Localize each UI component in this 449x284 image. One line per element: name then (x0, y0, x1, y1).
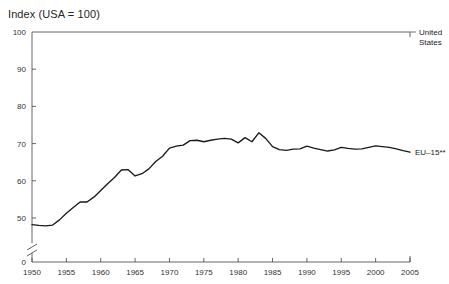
chart-figure: Index (USA = 100) 10090807060500 1950195… (0, 0, 449, 284)
series-label-united-states-line1: United (419, 28, 442, 37)
x-axis-tick-label: 1960 (92, 268, 110, 277)
y-axis-tick-label: 70 (17, 140, 26, 149)
x-axis-tick-label: 1975 (195, 268, 213, 277)
series-annotations: UnitedStatesEU–15** (410, 28, 446, 157)
y-axis-tick-label: 50 (17, 214, 26, 223)
data-series-group (32, 133, 410, 226)
y-axis-tick-label: 0 (22, 258, 27, 267)
x-axis-tick-label: 1970 (161, 268, 179, 277)
chart-canvas: 10090807060500 1950195519601965197019751… (0, 0, 449, 284)
x-axis-tick-label: 2000 (367, 268, 385, 277)
x-axis-tick-label: 1985 (264, 268, 282, 277)
y-axis-tick-label: 60 (17, 177, 26, 186)
x-axis-tick-label: 1995 (332, 268, 350, 277)
x-axis-tick-label: 1990 (298, 268, 316, 277)
x-axis-tick-label: 1955 (57, 268, 75, 277)
y-axis-tick-label: 100 (13, 28, 27, 37)
series-label-united-states-line2: States (419, 38, 442, 47)
chart-axes (27, 32, 410, 262)
y-axis-tick-label: 80 (17, 102, 26, 111)
x-axis-tick-label: 2005 (401, 268, 419, 277)
series-label-eu15: EU–15** (415, 148, 446, 157)
axis-break-mark-upper (27, 244, 37, 250)
x-axis-tick-label: 1950 (23, 268, 41, 277)
x-axis-tick-label: 1965 (126, 268, 144, 277)
x-axis-tick-labels: 1950195519601965197019751980198519901995… (23, 268, 419, 277)
y-axis-tick-labels: 10090807060500 (13, 28, 27, 267)
x-axis-tick-label: 1980 (229, 268, 247, 277)
y-axis-tick-label: 90 (17, 65, 26, 74)
data-line-eu15 (32, 133, 410, 226)
